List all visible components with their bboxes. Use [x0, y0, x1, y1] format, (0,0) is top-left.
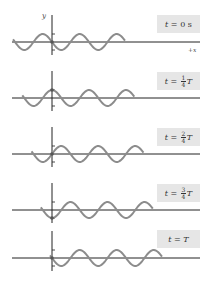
x-axis-label: +x [188, 46, 196, 53]
time-label-0: t = 0 s [157, 15, 200, 33]
time-label-full: t = T [157, 230, 200, 248]
particle-marker [50, 40, 54, 44]
particle-marker [50, 256, 54, 260]
particle-marker [50, 88, 54, 92]
time-label-quarter: t = 14T [157, 72, 200, 90]
time-label-half: t = 24T [157, 128, 200, 146]
y-axis-label: y [42, 12, 46, 20]
particle-marker [50, 216, 54, 220]
particle-marker [50, 152, 54, 156]
time-label-three-quarter: t = 34T [157, 184, 200, 202]
